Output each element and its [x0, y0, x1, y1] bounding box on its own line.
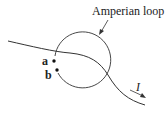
current-label: I	[136, 80, 140, 95]
point-b-dot	[55, 68, 58, 71]
point-a-dot	[52, 59, 55, 62]
loop-pointer-arrowhead	[99, 29, 104, 35]
amperian-loop-label: Amperian loop	[92, 4, 164, 19]
amperian-loop	[55, 32, 111, 88]
current-arrowhead	[140, 93, 146, 98]
wire	[8, 41, 145, 105]
point-b-label: b	[45, 68, 52, 83]
point-a-label: a	[42, 54, 48, 69]
